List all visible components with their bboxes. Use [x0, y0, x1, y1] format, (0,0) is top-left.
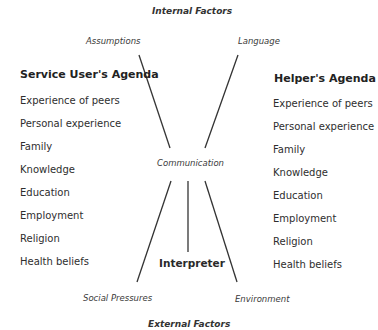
- interpreter-label: Interpreter: [159, 257, 225, 269]
- left-item: Knowledge: [20, 164, 75, 175]
- social-pressures-label: Social Pressures: [83, 293, 152, 303]
- left-item: Experience of peers: [20, 95, 120, 106]
- service-user-agenda-title: Service User's Agenda: [20, 68, 159, 81]
- left-item: Education: [20, 187, 70, 198]
- language-label: Language: [238, 36, 280, 46]
- helper-agenda-title: Helper's Agenda: [274, 72, 376, 85]
- internal-factors-heading: Internal Factors: [152, 6, 232, 16]
- left-item: Personal experience: [20, 118, 121, 129]
- right-item: Personal experience: [273, 121, 374, 132]
- right-item: Religion: [273, 236, 313, 247]
- assumptions-label: Assumptions: [86, 36, 140, 46]
- left-item: Health beliefs: [20, 256, 89, 267]
- right-item: Employment: [273, 213, 336, 224]
- left-item: Employment: [20, 210, 83, 221]
- external-factors-heading: External Factors: [148, 319, 230, 329]
- left-item: Religion: [20, 233, 60, 244]
- communication-label: Communication: [157, 158, 224, 168]
- right-item: Education: [273, 190, 323, 201]
- right-item: Experience of peers: [273, 98, 373, 109]
- right-item: Family: [273, 144, 305, 155]
- left-item: Family: [20, 141, 52, 152]
- right-item: Knowledge: [273, 167, 328, 178]
- environment-label: Environment: [235, 294, 289, 304]
- right-item: Health beliefs: [273, 259, 342, 270]
- line-language: [205, 55, 238, 148]
